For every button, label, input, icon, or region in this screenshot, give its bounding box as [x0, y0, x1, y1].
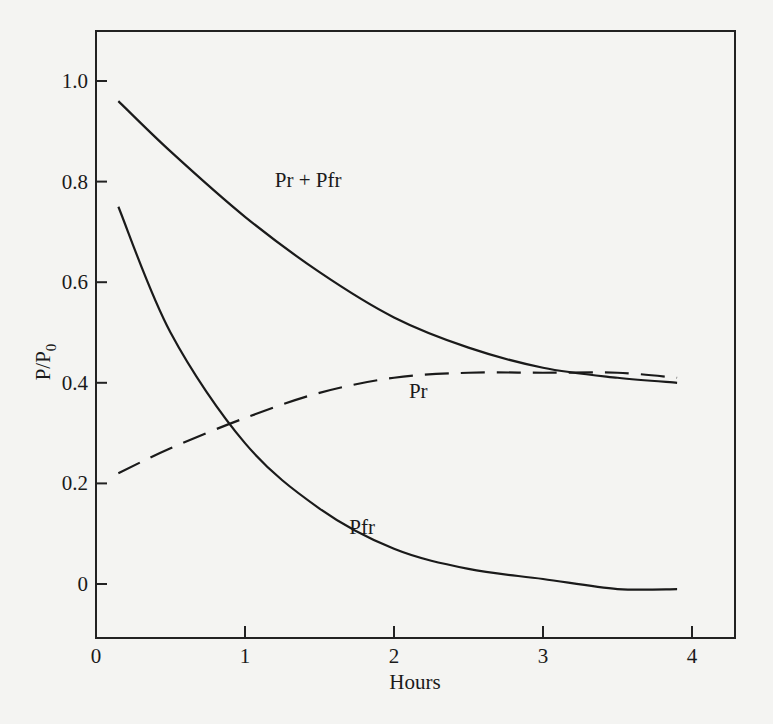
y-tick-label: 1.0: [62, 69, 88, 93]
series-label: Pfr: [349, 515, 375, 539]
y-axis-ticks: 00.20.40.60.81.0: [62, 69, 107, 596]
chart: 00.20.40.60.81.0 01234 Pr + PfrPrPfr Hou…: [0, 0, 773, 724]
series-pr-pfr: [118, 101, 677, 383]
x-tick-label: 0: [91, 644, 102, 668]
x-tick-label: 1: [240, 644, 251, 668]
y-axis-label-group: P/P0: [31, 344, 59, 381]
x-axis-ticks: 01234: [91, 626, 698, 668]
series-labels: Pr + PfrPrPfr: [275, 168, 428, 539]
x-tick-label: 2: [389, 644, 400, 668]
x-tick-label: 3: [538, 644, 549, 668]
x-tick-label: 4: [687, 644, 698, 668]
y-axis-label: P/P0: [31, 344, 59, 381]
y-tick-label: 0.2: [62, 471, 88, 495]
series-pr: [118, 372, 677, 473]
series-pfr: [118, 207, 677, 590]
plot-frame: [96, 31, 735, 638]
x-axis-label: Hours: [389, 670, 440, 694]
y-tick-label: 0.6: [62, 270, 88, 294]
series-label: Pr + Pfr: [275, 168, 342, 192]
y-tick-label: 0: [78, 572, 89, 596]
series-group: [118, 101, 677, 590]
y-tick-label: 0.8: [62, 170, 88, 194]
series-label: Pr: [409, 379, 428, 403]
y-tick-label: 0.4: [62, 371, 89, 395]
